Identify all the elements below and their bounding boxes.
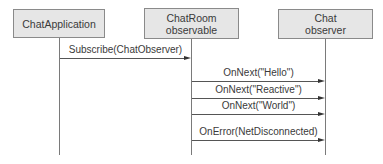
message-line <box>192 140 319 141</box>
participant-label: Chat observer <box>305 12 346 36</box>
message-line <box>192 114 319 115</box>
message-label: Subscribe(ChatObserver) <box>60 44 191 56</box>
message-line <box>192 81 319 82</box>
arrowhead-icon <box>318 79 325 83</box>
message-line <box>60 58 185 59</box>
message-label: OnNext("Reactive") <box>192 84 325 96</box>
participant-chat-application: ChatApplication <box>13 9 105 38</box>
message-onerror: OnError(NetDisconnected) <box>192 140 325 152</box>
lifeline-chat-observer <box>325 39 326 155</box>
message-onnext-world: OnNext("World") <box>192 114 325 126</box>
message-subscribe: Subscribe(ChatObserver) <box>60 58 191 70</box>
arrowhead-icon <box>318 112 325 116</box>
participant-chat-observer: Chat observer <box>278 9 373 39</box>
message-label: OnNext("Hello") <box>192 67 325 79</box>
participant-label: ChatRoom observable <box>166 12 217 36</box>
arrowhead-icon <box>318 138 325 142</box>
message-label: OnNext("World") <box>192 100 325 112</box>
arrowhead-icon <box>184 56 191 60</box>
participant-chatroom-observable: ChatRoom observable <box>144 8 239 39</box>
participant-label: ChatApplication <box>22 18 96 30</box>
message-label: OnError(NetDisconnected) <box>192 126 325 138</box>
message-line <box>192 98 319 99</box>
